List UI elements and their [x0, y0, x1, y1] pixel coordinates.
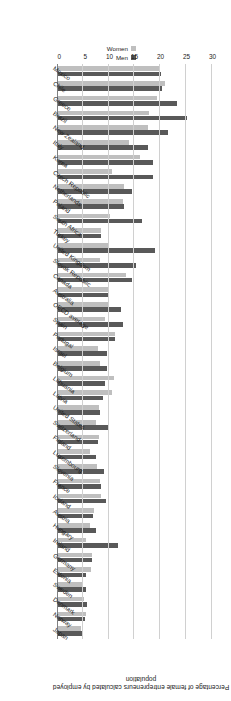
bar-men[interactable] — [57, 130, 168, 135]
bar-women[interactable] — [57, 155, 140, 160]
bar-row[interactable] — [57, 79, 212, 94]
x-tick-label-15: 15 — [131, 53, 138, 60]
bar-men[interactable] — [57, 86, 162, 91]
x-axis-title: Percentage of female entrepreneurs calcu… — [51, 674, 231, 691]
bar-row[interactable] — [57, 108, 212, 123]
bar-row[interactable] — [57, 152, 212, 167]
bar-row[interactable] — [57, 477, 212, 492]
bar-row[interactable] — [57, 241, 212, 256]
bar-women[interactable] — [57, 391, 112, 396]
x-tick-label-30: 30 — [209, 53, 216, 60]
bar-chart-figure: Percentage of female entrepreneurs calcu… — [0, 0, 231, 701]
plot-area — [57, 64, 212, 639]
bar-row[interactable] — [57, 123, 212, 138]
gridline-10 — [108, 64, 109, 639]
gridline-15 — [134, 64, 135, 639]
bar-row[interactable] — [57, 344, 212, 359]
bar-row[interactable] — [57, 447, 212, 462]
category-labels: MexicoChileGreeceBrazilNew ZealandItalyK… — [0, 64, 57, 639]
gridline-25 — [185, 64, 186, 639]
bar-row[interactable] — [57, 594, 212, 609]
bar-row[interactable] — [57, 167, 212, 182]
bar-women[interactable] — [57, 287, 109, 292]
bar-row[interactable] — [57, 491, 212, 506]
x-tick-label-25: 25 — [183, 53, 190, 60]
bar-row[interactable] — [57, 609, 212, 624]
x-tick-label-10: 10 — [106, 53, 113, 60]
gridline-20 — [159, 64, 160, 639]
bar-women[interactable] — [57, 376, 114, 381]
bar-row[interactable] — [57, 403, 212, 418]
bar-row[interactable] — [57, 624, 212, 639]
x-tick-label-20: 20 — [157, 53, 164, 60]
bar-men[interactable] — [57, 160, 153, 165]
bar-row[interactable] — [57, 64, 212, 79]
bar-row[interactable] — [57, 536, 212, 551]
x-axis-ticks: 051015202530 — [57, 48, 212, 62]
bar-row[interactable] — [57, 506, 212, 521]
x-tick-label-5: 5 — [83, 53, 87, 60]
bar-women[interactable] — [57, 111, 149, 116]
bar-women[interactable] — [57, 169, 112, 174]
bar-row[interactable] — [57, 373, 212, 388]
bar-row[interactable] — [57, 211, 212, 226]
bar-row[interactable] — [57, 329, 212, 344]
bar-row[interactable] — [57, 521, 212, 536]
bar-women[interactable] — [57, 214, 110, 219]
bar-row[interactable] — [57, 285, 212, 300]
bar-row[interactable] — [57, 580, 212, 595]
bar-men[interactable] — [57, 116, 187, 121]
bar-women[interactable] — [57, 199, 123, 204]
bar-row[interactable] — [57, 300, 212, 315]
bar-row[interactable] — [57, 565, 212, 580]
rotated-figure-container: Percentage of female entrepreneurs calcu… — [0, 0, 231, 701]
bar-women[interactable] — [57, 332, 115, 337]
bar-rows — [57, 64, 212, 639]
bar-row[interactable] — [57, 93, 212, 108]
bar-women[interactable] — [57, 81, 165, 86]
bar-row[interactable] — [57, 550, 212, 565]
gridline-5 — [82, 64, 83, 639]
bar-row[interactable] — [57, 359, 212, 374]
gridline-30 — [211, 64, 212, 639]
x-tick-label-0: 0 — [57, 53, 61, 60]
bar-row[interactable] — [57, 388, 212, 403]
